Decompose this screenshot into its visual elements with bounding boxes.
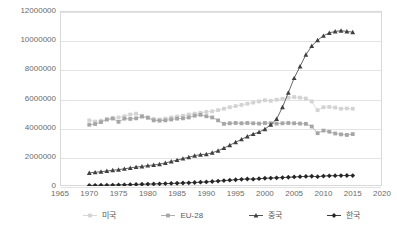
data-point [268,176,273,181]
data-point [304,122,308,126]
data-point [245,134,250,138]
x-tick-label: 2010 [308,190,338,198]
x-tick-label: 2000 [250,190,280,198]
data-point [275,122,279,126]
data-point [210,116,214,120]
series-EU-28 [87,113,354,137]
data-point [239,177,244,182]
data-point [210,109,214,113]
data-point [298,64,303,68]
x-tick-label: 2020 [367,190,397,198]
data-point [187,116,191,120]
data-point [286,90,291,94]
data-point [327,130,331,134]
legend-marker-square-icon [82,211,98,220]
data-point [345,133,349,137]
data-point [321,33,326,37]
data-point [134,112,138,116]
legend-label: 미국 [102,211,116,220]
data-point [87,123,91,127]
legend-item-2[interactable]: 중국 [248,211,282,220]
x-tick-label: 1965 [45,190,75,198]
data-point [122,182,127,186]
y-tick-label: 6000000 [25,95,56,103]
data-point [167,213,171,217]
data-point [286,175,291,180]
data-point [321,174,326,179]
data-point [339,173,344,178]
data-point [292,95,296,99]
legend-item-0[interactable]: 미국 [82,211,116,220]
data-point [245,121,249,125]
data-point [333,106,337,110]
data-point [351,132,355,136]
data-point [93,122,97,126]
data-point [110,183,115,186]
data-point [105,118,109,122]
data-point [251,101,255,105]
data-point [339,107,343,111]
legend-item-1[interactable]: EU-28 [160,211,203,220]
data-point [222,146,227,150]
data-point [128,117,132,121]
data-point [222,107,226,111]
data-point [257,176,262,181]
data-point [263,121,267,125]
x-tick-label: 1990 [191,190,221,198]
data-point [274,117,279,121]
data-point [280,175,285,180]
data-point [251,177,256,182]
data-point [251,121,255,125]
y-tick-label: 12000000 [20,7,56,15]
x-tick-label: 1975 [104,190,134,198]
data-point [210,179,215,184]
data-point [245,177,250,182]
data-point [134,182,139,186]
y-tick-label: 4000000 [25,124,56,132]
line-chart: 0200000040000006000000800000010000000120… [0,0,397,229]
data-point [175,181,180,186]
data-point [87,183,92,186]
data-point [193,114,197,118]
data-point [116,183,121,186]
data-point [104,183,109,186]
data-point [280,105,285,109]
data-point [117,120,121,124]
y-tick-label: 10000000 [20,36,56,44]
data-point [128,182,133,186]
y-tick-label: 8000000 [25,65,56,73]
data-point [192,180,197,185]
data-point [222,122,226,126]
data-point [186,180,191,185]
data-point [234,121,238,125]
data-point [233,177,238,182]
x-tick-label: 1970 [74,190,104,198]
data-point [240,121,244,125]
legend-label: EU-28 [180,211,203,220]
data-point [327,105,331,109]
data-point [216,179,221,184]
data-point [175,117,179,121]
data-point [322,129,326,133]
data-point [99,120,103,124]
data-point [163,118,167,122]
data-point [146,116,150,120]
data-point [292,121,296,125]
data-point [286,121,290,125]
legend-item-3[interactable]: 한국 [326,211,360,220]
x-tick-label: 2005 [279,190,309,198]
data-point [204,180,209,185]
data-point [240,103,244,107]
x-tick-label: 1995 [221,190,251,198]
data-point [233,140,238,144]
data-point [350,173,355,178]
data-point [281,121,285,125]
y-tick-label: 2000000 [25,153,56,161]
chart-legend: 미국EU-28중국한국 [60,206,382,224]
gridline [61,187,381,188]
legend-marker-diamond-icon [326,211,342,220]
data-point [304,97,308,101]
data-point [163,181,168,186]
data-point [292,175,297,180]
data-point [310,100,314,104]
